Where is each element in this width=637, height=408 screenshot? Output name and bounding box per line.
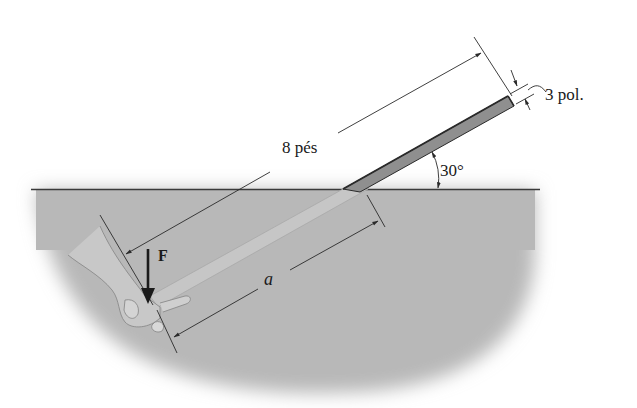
thickness-label: 3 pol. — [545, 86, 584, 103]
force-label: F — [158, 248, 168, 264]
length-label: 8 pés — [282, 139, 317, 156]
angle-label: 30° — [440, 162, 464, 179]
diagram-canvas — [0, 0, 637, 408]
thickness-dimension — [510, 70, 546, 110]
submerged-length-label: a — [264, 270, 273, 288]
extension-line-top — [474, 37, 512, 96]
angle-indicator — [432, 152, 439, 188]
figure-diagram: 8 pés 3 pol. 30° a F — [0, 0, 637, 408]
